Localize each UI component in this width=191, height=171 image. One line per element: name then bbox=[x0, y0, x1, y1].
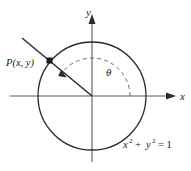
theta-label: θ bbox=[106, 66, 112, 78]
angle-arc-dashed bbox=[63, 58, 131, 96]
equation-y-term: y bbox=[145, 139, 151, 150]
x-axis-arrowhead bbox=[166, 93, 176, 100]
figure-canvas: y x P(x, y) θ x 2 + y 2 = 1 bbox=[0, 0, 191, 171]
equation-x-term: x bbox=[122, 139, 128, 150]
y-axis-label: y bbox=[85, 6, 91, 18]
x-axis-label: x bbox=[179, 90, 185, 102]
equation-plus-sign: + bbox=[135, 139, 141, 150]
unit-circle-figure: y x P(x, y) θ x 2 + y 2 = 1 bbox=[0, 0, 191, 171]
equation-right-side: = 1 bbox=[158, 139, 172, 150]
equation-x-exponent: 2 bbox=[129, 137, 133, 145]
circle-equation: x 2 + y 2 = 1 bbox=[122, 137, 172, 150]
point-p-label: P(x, y) bbox=[5, 57, 34, 69]
point-p-marker bbox=[47, 58, 53, 64]
equation-y-exponent: 2 bbox=[152, 137, 156, 145]
